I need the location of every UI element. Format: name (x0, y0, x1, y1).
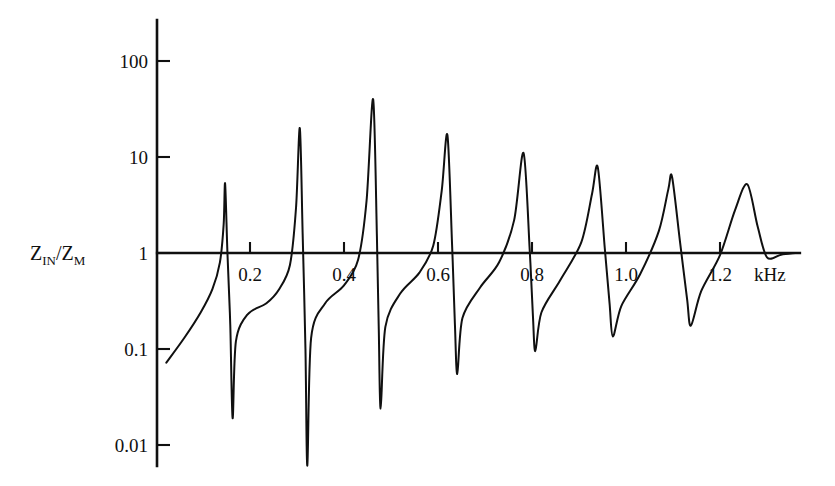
x-tick-label: 0.6 (426, 264, 450, 285)
y-axis-ticks (157, 61, 170, 445)
y-axis-label: ZIN/ZM (30, 242, 86, 268)
y-label-sub-m: M (74, 253, 86, 268)
x-tick-label: 0.2 (238, 264, 262, 285)
x-axis-ticks (250, 242, 720, 253)
y-tick-label: 10 (129, 147, 148, 168)
y-label-sub-in: IN (42, 253, 56, 268)
x-tick-label: 1.0 (614, 264, 638, 285)
x-tick-label: 1.2 (708, 264, 732, 285)
y-label-z2: Z (62, 242, 74, 264)
axes (157, 20, 800, 466)
y-axis-label-text: ZIN/ZM (30, 242, 86, 268)
x-axis-unit-label: kHz (754, 264, 786, 285)
impedance-response-figure: 1001010.10.01 0.20.40.60.81.01.2 ZIN/ZM … (0, 0, 835, 486)
x-unit-text: kHz (754, 264, 786, 285)
y-tick-label: 0.01 (115, 435, 148, 456)
y-label-z1: Z (30, 242, 42, 264)
y-axis-tick-labels: 1001010.10.01 (115, 51, 148, 456)
y-tick-label: 100 (120, 51, 149, 72)
chart-canvas: 1001010.10.01 0.20.40.60.81.01.2 ZIN/ZM … (0, 0, 835, 486)
y-tick-label: 1 (139, 243, 149, 264)
y-tick-label: 0.1 (124, 339, 148, 360)
